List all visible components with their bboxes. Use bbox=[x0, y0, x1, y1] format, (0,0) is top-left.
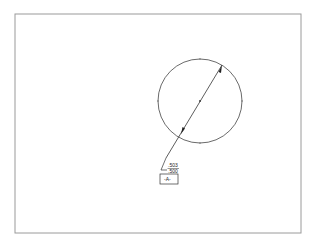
drawing-canvas bbox=[0, 0, 316, 243]
leader-line bbox=[161, 158, 167, 170]
arrowhead-top bbox=[219, 65, 223, 73]
drawing-frame bbox=[15, 14, 301, 233]
datum-label: -A- bbox=[164, 177, 171, 182]
lower-limit-text: .500 bbox=[168, 169, 178, 174]
center-point bbox=[199, 100, 201, 102]
diameter-line bbox=[166, 65, 222, 158]
